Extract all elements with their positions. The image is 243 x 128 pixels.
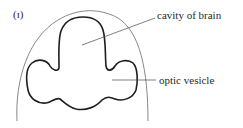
panel-label: (ɪ) xyxy=(13,8,24,21)
cavity-of-brain-leader xyxy=(82,18,155,45)
head-outline xyxy=(17,11,148,121)
embryo-brain-diagram: (ɪ) cavity of brain optic vesicle xyxy=(0,0,243,128)
cavity-of-brain-label: cavity of brain xyxy=(157,9,222,21)
optic-vesicle-label: optic vesicle xyxy=(159,74,214,86)
